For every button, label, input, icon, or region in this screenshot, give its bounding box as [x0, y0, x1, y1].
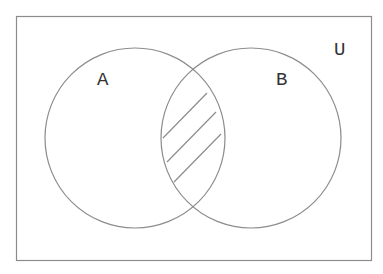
set-a-circle	[45, 48, 225, 228]
hatch-line	[174, 134, 221, 182]
venn-diagram: A B U	[0, 0, 383, 274]
set-a-label: A	[97, 69, 109, 91]
universe-label: U	[334, 39, 345, 61]
intersection-hatching	[163, 93, 221, 182]
set-b-circle	[161, 48, 341, 228]
hatch-line	[167, 112, 216, 162]
set-b-label: B	[276, 69, 287, 91]
universe-rectangle	[17, 17, 372, 261]
